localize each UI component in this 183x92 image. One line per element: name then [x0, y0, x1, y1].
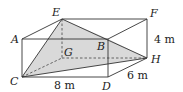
edge-BF [108, 19, 147, 39]
vertex-label-F: F [149, 7, 158, 20]
dimension-height: 4 m [154, 33, 175, 46]
vertex-label-C: C [10, 75, 19, 88]
vertex-label-H: H [150, 53, 161, 66]
vertex-label-B: B [96, 40, 105, 53]
cuboid-diagram: E F A B G H C D 8 m 6 m 4 m [0, 0, 183, 92]
dimension-length: 8 m [54, 79, 75, 92]
vertex-label-E: E [51, 6, 60, 19]
vertex-label-D: D [101, 80, 111, 92]
vertex-label-G: G [64, 46, 73, 59]
dimension-width: 6 m [127, 69, 148, 82]
vertex-label-A: A [10, 33, 19, 46]
